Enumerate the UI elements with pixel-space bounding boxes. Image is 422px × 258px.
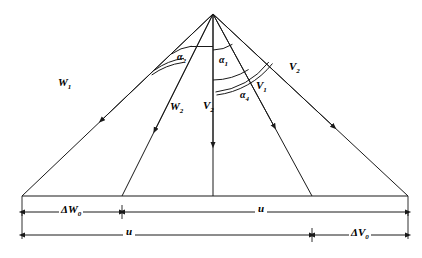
ray-label-v1: V1 xyxy=(256,80,267,94)
dimension-label-u-right: u xyxy=(255,203,267,214)
dimension-label-delta-w0: ΔW0 xyxy=(59,204,83,218)
ray-label-v2-right: V2 xyxy=(289,61,300,75)
angle-label-alpha1: α1 xyxy=(219,55,228,68)
diagram-canvas xyxy=(0,0,422,258)
dimension-label-u-left: u xyxy=(123,226,135,237)
ray-diagram-figure: W1 W2 V2 V1 V2 α1 α2 α4 ΔW0 u u ΔV0 xyxy=(0,0,422,258)
ray-label-w1: W1 xyxy=(58,77,71,91)
angle-label-alpha4: α4 xyxy=(240,90,249,103)
dimension-label-delta-v0: ΔV0 xyxy=(349,227,371,241)
angle-label-alpha2: α2 xyxy=(177,52,186,65)
ray-label-v2-center: V2 xyxy=(203,100,214,114)
ray-label-w2: W2 xyxy=(170,101,183,115)
